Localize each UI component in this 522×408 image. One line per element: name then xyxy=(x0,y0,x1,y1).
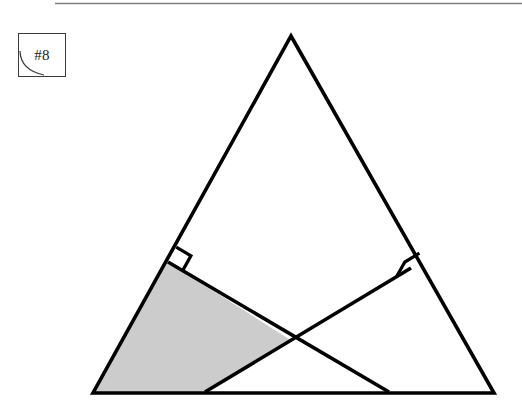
problem-number-label: #8 xyxy=(34,48,49,63)
geometry-figure-canvas xyxy=(0,0,522,408)
figure-root: #8 xyxy=(0,0,522,408)
shaded-quadrilateral xyxy=(93,262,292,393)
problem-number-box: #8 xyxy=(18,33,66,77)
right-angle-mark-right xyxy=(396,253,419,277)
